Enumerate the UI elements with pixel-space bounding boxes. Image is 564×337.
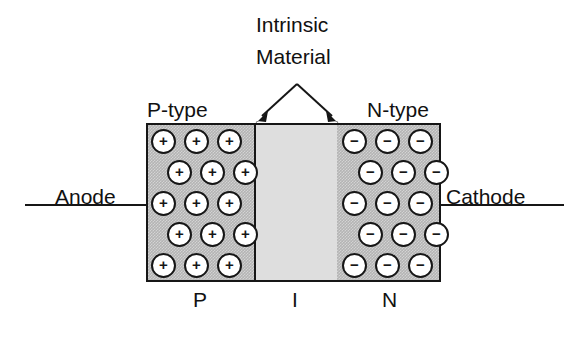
hole-carrier-symbol: + <box>241 164 250 179</box>
arrow-left-shaft <box>262 84 297 116</box>
electron-carrier-symbol: − <box>350 133 359 148</box>
electron-carrier: − <box>424 222 449 247</box>
hole-carrier-symbol: + <box>208 226 217 241</box>
electron-carrier-symbol: − <box>350 257 359 272</box>
hole-carrier-symbol: + <box>159 133 168 148</box>
region-letter-i: I <box>292 289 298 310</box>
electron-carrier-symbol: − <box>416 195 425 210</box>
electron-carrier: − <box>342 253 367 278</box>
hole-carrier-symbol: + <box>192 257 201 272</box>
intrinsic-material-label-line1: Intrinsic <box>256 14 328 35</box>
electron-carrier-symbol: − <box>399 226 408 241</box>
electron-carrier-symbol: − <box>366 226 375 241</box>
hole-carrier: + <box>200 160 225 185</box>
anode-label: Anode <box>55 186 116 207</box>
intrinsic-material-label-line2: Material <box>256 46 331 67</box>
hole-carrier: + <box>217 191 242 216</box>
hole-carrier: + <box>184 129 209 154</box>
hole-carrier-symbol: + <box>225 195 234 210</box>
hole-carrier: + <box>184 191 209 216</box>
hole-carrier-symbol: + <box>241 226 250 241</box>
electron-carrier-symbol: − <box>416 257 425 272</box>
electron-carrier-symbol: − <box>383 257 392 272</box>
electron-carrier-symbol: − <box>350 195 359 210</box>
hole-carrier: + <box>233 222 258 247</box>
hole-carrier-symbol: + <box>175 226 184 241</box>
n-type-label: N-type <box>367 99 429 120</box>
electron-carrier: − <box>375 129 400 154</box>
hole-carrier-symbol: + <box>225 257 234 272</box>
hole-carrier: + <box>151 191 176 216</box>
intrinsic-region <box>254 123 339 282</box>
electron-carrier-symbol: − <box>383 133 392 148</box>
hole-carrier: + <box>217 129 242 154</box>
electron-carrier-symbol: − <box>432 226 441 241</box>
electron-carrier-symbol: − <box>366 164 375 179</box>
electron-carrier: − <box>375 253 400 278</box>
hole-carrier-symbol: + <box>192 195 201 210</box>
hole-carrier-symbol: + <box>159 257 168 272</box>
hole-carrier-symbol: + <box>208 164 217 179</box>
electron-carrier: − <box>358 160 383 185</box>
hole-carrier: + <box>167 160 192 185</box>
hole-carrier: + <box>200 222 225 247</box>
electron-carrier: − <box>408 191 433 216</box>
electron-carrier: − <box>342 129 367 154</box>
electron-carrier-symbol: − <box>432 164 441 179</box>
hole-carrier: + <box>151 253 176 278</box>
p-type-label: P-type <box>147 99 208 120</box>
electron-carrier-symbol: − <box>383 195 392 210</box>
region-letter-n: N <box>382 289 397 310</box>
electron-carrier: − <box>408 253 433 278</box>
hole-carrier-symbol: + <box>225 133 234 148</box>
hole-carrier-symbol: + <box>192 133 201 148</box>
arrow-right-shaft <box>297 84 332 116</box>
hole-carrier-symbol: + <box>159 195 168 210</box>
region-letter-p: P <box>193 289 207 310</box>
electron-carrier: − <box>391 222 416 247</box>
electron-carrier-symbol: − <box>399 164 408 179</box>
hole-carrier: + <box>151 129 176 154</box>
hole-carrier-symbol: + <box>175 164 184 179</box>
cathode-label: Cathode <box>446 186 525 207</box>
diagram-canvas: Intrinsic Material P-type N-type Anode C… <box>0 0 564 337</box>
electron-carrier: − <box>342 191 367 216</box>
electron-carrier: − <box>391 160 416 185</box>
electron-carrier: − <box>408 129 433 154</box>
electron-carrier-symbol: − <box>416 133 425 148</box>
hole-carrier: + <box>217 253 242 278</box>
electron-carrier: − <box>375 191 400 216</box>
electron-carrier: − <box>424 160 449 185</box>
hole-carrier: + <box>233 160 258 185</box>
electron-carrier: − <box>358 222 383 247</box>
hole-carrier: + <box>184 253 209 278</box>
hole-carrier: + <box>167 222 192 247</box>
